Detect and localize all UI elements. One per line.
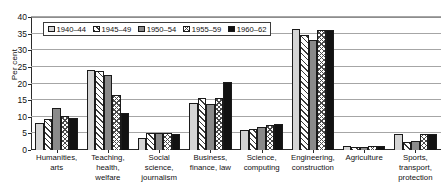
bar[interactable]	[266, 125, 275, 150]
x-axis-label: Teaching,health,welfare	[82, 153, 133, 183]
x-axis-label-line: health,	[83, 163, 132, 173]
legend-label: 1960–62	[237, 25, 267, 34]
legend-swatch-icon	[228, 26, 235, 33]
bar[interactable]	[206, 104, 215, 150]
x-axis-label-line: journalism	[135, 173, 184, 183]
y-tick-label: 10	[18, 112, 27, 122]
x-axis-label: Agriculture	[339, 153, 390, 183]
bar[interactable]	[146, 133, 155, 150]
bar[interactable]	[300, 35, 309, 150]
bar[interactable]	[249, 129, 258, 150]
bar[interactable]	[403, 142, 412, 150]
bar[interactable]	[52, 108, 61, 150]
x-axis-label-line: Sports,	[391, 153, 440, 163]
legend-item[interactable]: 1950–54	[138, 25, 176, 34]
legend-label: 1945–49	[102, 25, 132, 34]
bar[interactable]	[368, 146, 377, 150]
x-axis-label-line: Social science,	[135, 153, 184, 173]
y-tick-label: 25	[18, 62, 27, 72]
x-axis-label-line: finance, law	[186, 163, 235, 173]
legend-swatch-icon	[138, 26, 145, 33]
x-axis-label-line: Science,	[237, 153, 286, 163]
x-axis-label-line: construction	[288, 163, 337, 173]
x-tick-mark	[108, 150, 109, 153]
legend-swatch-icon	[93, 26, 100, 33]
bar[interactable]	[411, 141, 420, 150]
x-axis-label: Humanities,arts	[31, 153, 82, 183]
bar-group	[134, 17, 185, 150]
bar[interactable]	[351, 147, 360, 150]
bar-group	[236, 17, 287, 150]
bar[interactable]	[87, 70, 96, 150]
legend-item[interactable]: 1945–49	[93, 25, 131, 34]
x-axis-labels: Humanities,artsTeaching,health,welfareSo…	[31, 153, 441, 183]
x-axis-label: Social science,journalism	[134, 153, 185, 183]
bar[interactable]	[44, 119, 53, 150]
bar[interactable]	[198, 98, 207, 150]
bar[interactable]	[155, 133, 164, 150]
bar[interactable]	[309, 40, 318, 150]
x-axis-label-line: computing	[237, 163, 286, 173]
bar[interactable]	[104, 75, 113, 150]
x-axis-label-line: Teaching,	[83, 153, 132, 163]
bar-group	[287, 17, 338, 150]
x-axis-label-line: transport,	[391, 163, 440, 173]
x-tick-mark	[210, 150, 211, 153]
x-axis-label-line: Agriculture	[340, 153, 389, 163]
bar[interactable]	[257, 127, 266, 150]
bar-group	[31, 17, 82, 150]
x-axis-label: Science,computing	[236, 153, 287, 183]
bar[interactable]	[35, 123, 44, 150]
legend-item[interactable]: 1960–62	[228, 25, 266, 34]
bar[interactable]	[420, 134, 429, 150]
bar[interactable]	[61, 116, 70, 150]
x-axis-label: Business,finance, law	[185, 153, 236, 183]
bar-chart: Per cent 0510152025303540 Humanities,art…	[0, 0, 447, 196]
bar[interactable]	[215, 98, 224, 150]
bar[interactable]	[274, 124, 283, 150]
x-tick-mark	[364, 150, 365, 153]
x-axis-label-line: welfare	[83, 173, 132, 183]
bar[interactable]	[138, 138, 147, 150]
x-axis-label-line: arts	[32, 163, 81, 173]
legend-item[interactable]: 1955–59	[183, 25, 221, 34]
bar-group	[390, 17, 441, 150]
legend-label: 1955–59	[192, 25, 222, 34]
bar[interactable]	[112, 95, 121, 150]
bar[interactable]	[428, 134, 437, 150]
bar[interactable]	[172, 134, 181, 150]
bar[interactable]	[317, 30, 326, 150]
bar[interactable]	[95, 71, 104, 150]
x-axis-label-line: Business,	[186, 153, 235, 163]
y-tick-label: 15	[18, 95, 27, 105]
x-axis-label: Sports,transport,protection	[390, 153, 441, 183]
y-tick-label: 20	[18, 79, 27, 89]
x-axis-label-line: Engineering,	[288, 153, 337, 163]
legend-swatch-icon	[183, 26, 190, 33]
x-tick-mark	[415, 150, 416, 153]
bar-group	[185, 17, 236, 150]
bar[interactable]	[394, 134, 403, 150]
x-tick-mark	[313, 150, 314, 153]
bar[interactable]	[223, 82, 232, 150]
bar[interactable]	[163, 133, 172, 150]
legend-label: 1940–44	[57, 25, 87, 34]
bar[interactable]	[326, 30, 335, 150]
bar[interactable]	[240, 130, 249, 150]
bar[interactable]	[377, 146, 386, 150]
x-tick-mark	[262, 150, 263, 153]
bar[interactable]	[292, 29, 301, 150]
bar-group	[339, 17, 390, 150]
bar[interactable]	[69, 118, 78, 150]
bar[interactable]	[343, 146, 352, 150]
y-tick-label: 5	[22, 128, 27, 138]
x-tick-mark	[159, 150, 160, 153]
bar[interactable]	[121, 113, 130, 150]
legend-label: 1950–54	[147, 25, 177, 34]
legend-item[interactable]: 1940–44	[48, 25, 86, 34]
y-tick-label: 35	[18, 29, 27, 39]
y-tick-mark	[28, 150, 31, 151]
x-tick-mark	[57, 150, 58, 153]
bar-groups	[31, 17, 441, 150]
bar[interactable]	[189, 103, 198, 150]
